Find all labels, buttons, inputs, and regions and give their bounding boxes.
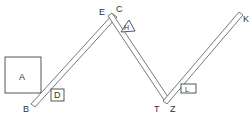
label-l: L — [185, 86, 189, 93]
label-c: C — [116, 4, 123, 14]
label-t: T — [154, 104, 160, 114]
linkage-diagram: A D H L B E C K T Z — [0, 0, 250, 115]
label-d: D — [54, 90, 61, 100]
label-a: A — [19, 72, 25, 82]
label-k: K — [243, 14, 249, 24]
rod-b-c — [31, 14, 117, 107]
label-z: Z — [170, 104, 176, 114]
label-e: E — [99, 7, 105, 17]
rod-z-k — [163, 12, 243, 104]
rod-c-t — [108, 13, 170, 103]
label-b: B — [23, 104, 29, 114]
label-h: H — [124, 24, 129, 31]
